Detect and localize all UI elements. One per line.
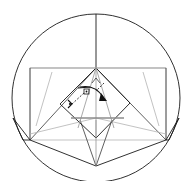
angle-tick-dot bbox=[69, 103, 71, 105]
fold-diagram-svg bbox=[0, 0, 193, 181]
apex-crease-right bbox=[96, 120, 112, 166]
dashed-guide-lower-left bbox=[72, 93, 84, 104]
fold-rotation-arrowhead bbox=[99, 93, 107, 101]
apex-crease-left bbox=[80, 120, 96, 166]
crease-right-lower bbox=[96, 118, 166, 134]
right-outer-flap-crease bbox=[166, 118, 179, 140]
crease-right-upper bbox=[143, 72, 159, 126]
fold-arrow-stem bbox=[78, 87, 90, 88]
figure-root bbox=[0, 0, 193, 181]
crease-left-upper bbox=[36, 72, 52, 126]
right-angle-dot bbox=[86, 91, 88, 93]
bottom-fold-outline bbox=[30, 140, 166, 166]
crease-left-lower bbox=[30, 118, 96, 134]
